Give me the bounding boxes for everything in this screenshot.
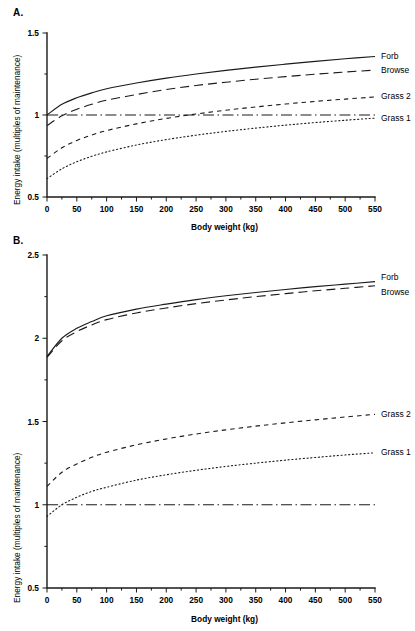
x-tick-label: 250 [189, 204, 203, 214]
panel-b-plot [0, 233, 405, 631]
x-tick-label: 300 [219, 204, 233, 214]
x-tick-label: 500 [338, 204, 352, 214]
y-tick-label: 0.5 [0, 583, 39, 593]
x-tick-label: 50 [72, 595, 81, 605]
x-tick-label: 450 [308, 204, 322, 214]
x-tick-label: 400 [279, 204, 293, 214]
x-tick-label: 350 [249, 204, 263, 214]
series-label-forb: Forb [381, 272, 398, 282]
x-tick-label: 250 [189, 595, 203, 605]
y-tick-label: 1.5 [0, 417, 39, 427]
x-tick-label: 50 [72, 204, 81, 214]
x-tick-label: 350 [249, 595, 263, 605]
x-tick-label: 100 [100, 204, 114, 214]
curve-browse [47, 286, 375, 358]
y-tick-label: 2 [0, 333, 39, 343]
y-tick-label: 1 [0, 110, 39, 120]
y-tick-label: 1 [0, 500, 39, 510]
curve-forb [47, 282, 375, 357]
curve-forb [47, 56, 375, 115]
series-label-grass1: Grass 1 [381, 113, 411, 123]
series-label-grass2: Grass 2 [381, 91, 411, 101]
curve-grass1 [47, 118, 375, 179]
axis-spines [47, 255, 375, 588]
x-tick-label: 200 [159, 204, 173, 214]
x-tick-label: 100 [100, 595, 114, 605]
curve-grass2 [47, 414, 375, 486]
x-tick-label: 150 [130, 595, 144, 605]
y-tick-label: 1.5 [0, 28, 39, 38]
series-label-browse: Browse [381, 65, 409, 75]
x-tick-label: 150 [130, 204, 144, 214]
x-tick-label: 400 [279, 595, 293, 605]
x-tick-label: 300 [219, 595, 233, 605]
x-tick-label: 0 [45, 204, 50, 214]
curve-grass1 [47, 453, 375, 517]
series-label-grass1: Grass 1 [381, 447, 411, 457]
curve-browse [47, 70, 375, 126]
x-tick-label: 0 [45, 595, 50, 605]
panel-b: B. Energy intake (multiples of maintenan… [0, 233, 405, 631]
y-tick-label: 2.5 [0, 250, 39, 260]
x-tick-label: 500 [338, 595, 352, 605]
x-tick-label: 200 [159, 595, 173, 605]
x-tick-label: 550 [368, 595, 382, 605]
y-tick-label: 0.5 [0, 192, 39, 202]
series-label-grass2: Grass 2 [381, 409, 411, 419]
series-label-forb: Forb [381, 51, 398, 61]
series-label-browse: Browse [381, 287, 409, 297]
panel-a: A. Energy intake (multiples of maintenan… [0, 0, 405, 240]
x-tick-label: 550 [368, 204, 382, 214]
curve-grass2 [47, 97, 375, 159]
x-tick-label: 450 [308, 595, 322, 605]
